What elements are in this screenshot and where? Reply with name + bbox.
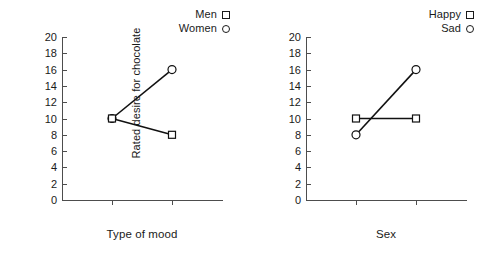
y-tick-label: 16 [279,70,301,71]
legend-item: Men [195,8,230,21]
y-tick-label: 0 [279,200,301,201]
x-axis-label: Type of mood [62,228,222,240]
legend-label: Women [179,22,217,35]
y-tick-label: 16 [35,70,57,71]
data-point-men-sad [169,131,176,138]
circle-marker-icon [222,25,230,33]
y-tick-label: 14 [279,86,301,87]
legend-label: Happy [429,8,461,21]
y-tick-label: 6 [35,151,57,152]
legend-label: Men [195,8,217,21]
y-tick-label: 18 [35,53,57,54]
y-tick-label: 14 [35,86,57,87]
data-point-sad-men [352,131,360,139]
y-tick-label: 18 [279,53,301,54]
y-tick-label: 20 [279,37,301,38]
legend-right: Happy Sad [429,8,474,35]
y-axis-label: Rated desire for chocolate [130,8,144,178]
y-tick-label: 0 [35,200,57,201]
square-marker-icon [466,11,474,19]
chart-panel-right: Happy Sad Rated desire for chocolate 0 2… [244,0,488,258]
y-tick-label: 12 [35,102,57,103]
y-tick-label: 2 [279,184,301,185]
x-axis-label: Sex [306,228,466,240]
legend-item: Women [179,22,230,35]
data-point-happy-men [353,115,360,122]
y-tick-label: 8 [35,135,57,136]
y-tick-label: 4 [279,167,301,168]
data-point-sad-women [412,66,420,74]
y-tick-label: 10 [279,119,301,120]
chart-panel-left: Men Women Rated desire for chocolate 0 2… [0,0,244,258]
plot-area-right: 0 2 4 6 8 10 12 14 16 18 20 Men Women [306,37,466,200]
y-tick-label: 8 [279,135,301,136]
data-point-happy-women [413,115,420,122]
series-line-sad [356,70,416,135]
legend-label: Sad [441,22,461,35]
y-tick-label: 4 [35,167,57,168]
y-tick-label: 20 [35,37,57,38]
y-tick-label: 10 [35,119,57,120]
circle-marker-icon [466,25,474,33]
interaction-plots-figure: Men Women Rated desire for chocolate 0 2… [0,0,488,258]
legend-item: Sad [441,22,474,35]
data-point-men-happy [109,115,116,122]
data-point-women-sad [168,66,176,74]
y-tick-label: 12 [279,102,301,103]
legend-left: Men Women [179,8,230,35]
legend-item: Happy [429,8,474,21]
series-layer-right [306,37,467,205]
y-tick-label: 6 [279,151,301,152]
y-tick-label: 2 [35,184,57,185]
square-marker-icon [222,11,230,19]
